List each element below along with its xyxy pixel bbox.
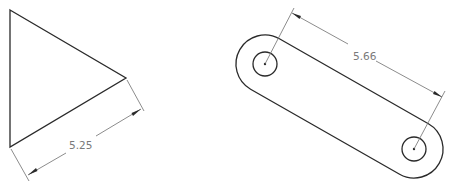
slot-dimension-label: 5.66 (353, 50, 377, 62)
arrow-head-icon (28, 168, 38, 175)
triangle-outline (10, 10, 126, 147)
arrow-head-icon (292, 13, 301, 19)
drawing-canvas: 5.25 5.66 (0, 0, 456, 186)
slotted-link-figure: 5.66 (236, 8, 445, 178)
slot-outline (236, 35, 443, 178)
slot-dimension-line-b (376, 61, 442, 97)
triangle-extension-line-left (11, 149, 29, 181)
arrow-head-icon (132, 109, 142, 116)
slot-extension-line-right (414, 91, 445, 149)
slot-dimension-line-a (292, 13, 348, 44)
arrow-head-icon (433, 91, 442, 97)
triangle-extension-line-right (127, 80, 144, 111)
slot-extension-line-left (265, 8, 294, 64)
triangle-figure: 5.25 (10, 10, 144, 181)
triangle-dimension-label: 5.25 (69, 139, 92, 151)
